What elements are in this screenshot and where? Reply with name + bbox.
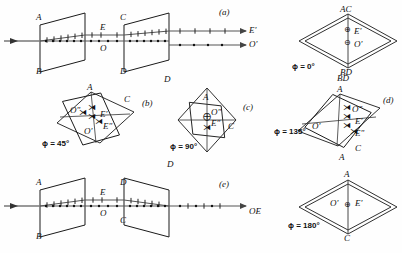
row-d-inner-label-1: O" [352, 105, 362, 114]
row-c-phi-label: ϕ = 90° [170, 143, 197, 151]
row-e-plate1-bottom-label: B [36, 232, 42, 241]
row-e-inner-right-label: E' [355, 199, 362, 208]
row-c-symbol-minus: ⧕ [203, 124, 211, 132]
row-a-oray-out [169, 44, 246, 46]
row-a-eray-out-label: E' [249, 26, 256, 35]
row-c-vertex-bottom-label: D [167, 160, 174, 169]
row-d-vertex-left-label: O' [312, 122, 320, 131]
row-e-plate2-top-label: D [120, 178, 127, 187]
row-a-eray-out [169, 28, 246, 33]
row-e-phi-label: ϕ = 180° [288, 222, 320, 230]
row-e-oray-gap [85, 205, 124, 207]
row-a-eray-mid-label: E [100, 23, 106, 32]
row-b-symbol-1: ⧕ [88, 104, 96, 112]
row-d-label-below: A [339, 153, 345, 162]
row-a-oray-segment2 [124, 40, 169, 42]
row-a-panel-id: (a) [219, 8, 230, 17]
row-a-oray-out-label: O' [249, 40, 257, 49]
row-e-oray-segment1 [40, 205, 85, 207]
row-a-oray-symbol: ⊖ [344, 39, 351, 47]
row-c-vertex-left-label: D [164, 75, 171, 84]
row-b-inner-label-3: E" [103, 122, 112, 131]
row-e-inner-left-label: O' [330, 199, 338, 208]
row-c-vertex-top-label: A [203, 93, 209, 102]
row-d-vertex-bottomright-label: C [355, 144, 361, 153]
row-c-inner-label-1: O" [211, 108, 221, 117]
row-a-incoming-ray [4, 38, 40, 44]
row-a-eray-segment2 [124, 29, 169, 37]
row-d-label-above: BD [337, 74, 349, 83]
row-b-vertex-top-label: A [87, 83, 93, 92]
row-c-inner-label-2: E" [211, 119, 220, 128]
row-a-plate2-top-label: C [120, 13, 126, 22]
row-e-inner-symbol: ⊕ [344, 201, 351, 209]
row-e-panel-id: (e) [219, 180, 229, 189]
row-e-incoming-ray [4, 203, 40, 209]
row-a-eray-symbol: ⊕ [344, 26, 351, 34]
row-d-phi-label: ϕ = 135° [274, 128, 306, 136]
row-b-vertex-right-label: C [124, 95, 130, 104]
row-c-vertex-right-label: C [228, 122, 234, 131]
row-e-rhombus-top-vertex-label: A [344, 170, 350, 179]
row-e-plate1-top-label: A [36, 178, 42, 187]
row-a-oray-symbol-label: O' [354, 40, 362, 49]
row-e-rhombus-bottom-vertex-label: C [344, 234, 350, 243]
row-d-symbol-2: ⧕ [343, 113, 351, 121]
row-d-symbol-4: ⧕ [350, 128, 358, 136]
row-c-symbol-plus: ⨁ [203, 113, 211, 121]
figure-vector-layer [0, 0, 402, 253]
row-e-plate2 [124, 178, 169, 237]
row-b-panel-id: (b) [142, 99, 153, 108]
row-e-plate2-bottom-label: C [120, 216, 126, 225]
row-d-rhombus-pair [298, 86, 380, 157]
row-e-eray-gap [85, 197, 124, 202]
row-a-plate2 [124, 13, 169, 72]
row-b-symbol-3: ⧕ [79, 109, 87, 117]
row-a-plate1-top-label: A [36, 13, 42, 22]
row-e-combined-out-label: OE [249, 207, 261, 216]
row-d-inner-label-2: E' [355, 117, 362, 126]
row-b-phi-label: ϕ = 45° [42, 140, 69, 148]
row-a-plate1-bottom-label: B [36, 67, 42, 76]
row-a-eray-gap [85, 32, 124, 37]
row-a-oray-mid-label: O [100, 44, 107, 53]
row-e-combined-ray-out [169, 203, 246, 208]
row-b-inner-label-4: O' [84, 127, 92, 136]
row-a-plate2-bottom-label: D [120, 67, 127, 76]
row-d-vertex-top-label: A [337, 85, 343, 94]
row-a-rhombus-top-vertex-label: AC [340, 5, 352, 14]
figure-canvas: A B C D E O E' O' (a) AC BD ⊕ E' ⊖ O' ϕ … [0, 0, 402, 253]
row-a-phi-label: ϕ = 0° [292, 63, 315, 71]
row-b-symbol-4: ⧕ [95, 118, 103, 126]
row-a-eray-symbol-label: E' [354, 27, 361, 36]
row-d-symbol-1: ⧕ [343, 104, 351, 112]
row-a-oray-gap [85, 40, 124, 42]
row-e-eray-mid-label: E [100, 188, 106, 197]
row-a-oray-segment1 [40, 40, 85, 42]
row-e-oray-mid-label: O [100, 209, 107, 218]
row-c-panel-id: (c) [243, 103, 253, 112]
row-d-panel-id: (d) [383, 96, 394, 105]
